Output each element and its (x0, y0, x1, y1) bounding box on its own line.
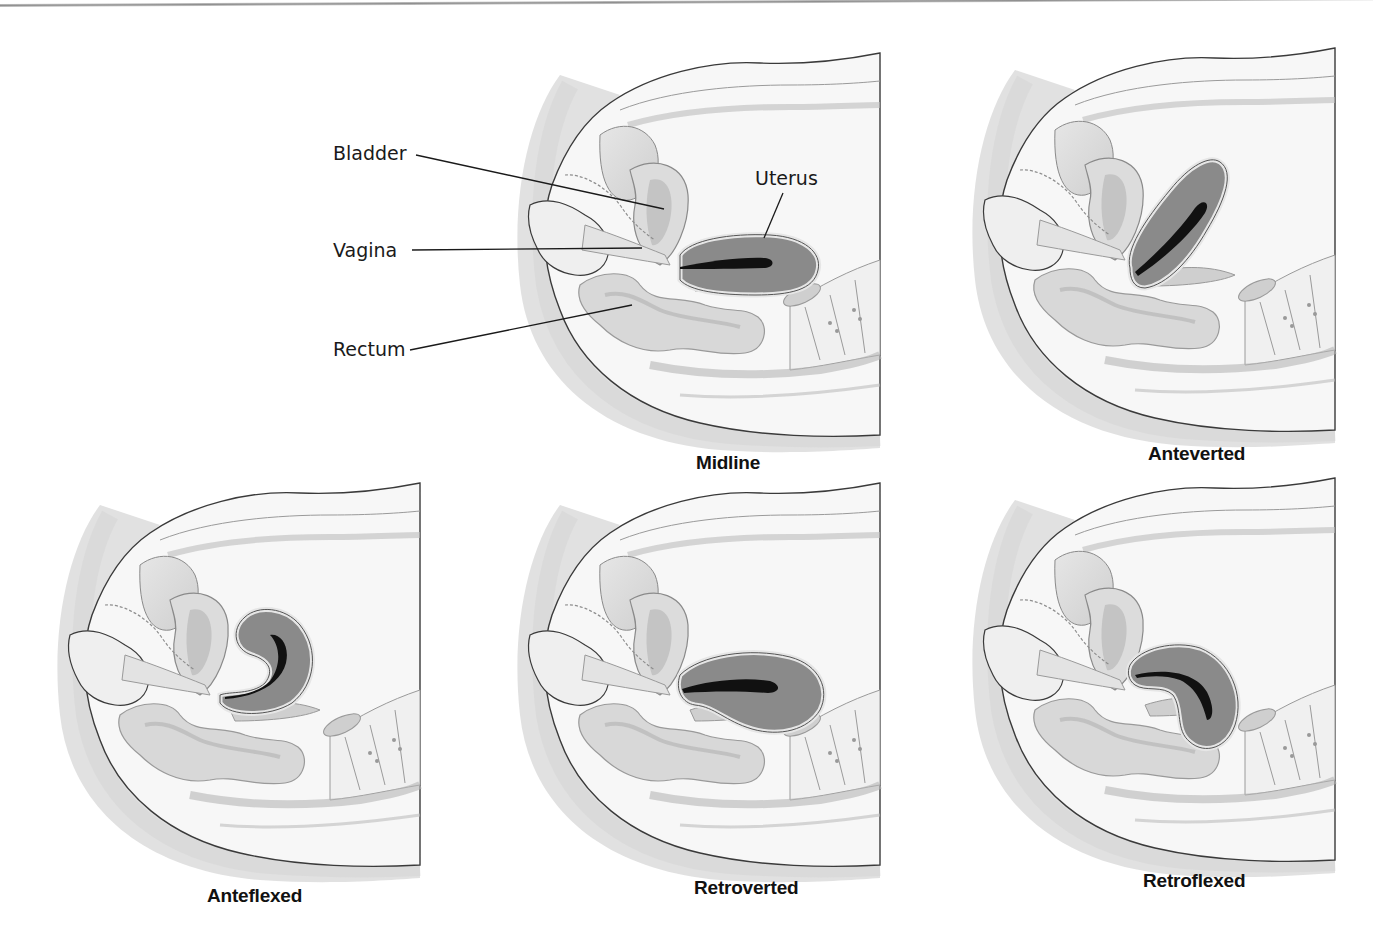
label-uterus: Uterus (755, 167, 818, 189)
caption-retroverted: Retroverted (694, 877, 798, 899)
panel-anteflexed (30, 485, 430, 885)
sagittal-pelvis-illustration (945, 50, 1345, 450)
label-rectum: Rectum (333, 338, 405, 360)
caption-retroflexed: Retroflexed (1143, 870, 1245, 892)
panel-anteverted (945, 50, 1345, 450)
panel-retroflexed (945, 480, 1345, 880)
caption-anteverted: Anteverted (1148, 443, 1245, 465)
top-border-rule (0, 0, 1373, 7)
panel-midline (490, 55, 890, 455)
sagittal-pelvis-illustration (30, 485, 430, 885)
caption-midline: Midline (696, 452, 760, 474)
sagittal-pelvis-illustration (945, 480, 1345, 880)
panel-retroverted (490, 485, 890, 885)
sagittal-pelvis-illustration (490, 485, 890, 885)
caption-anteflexed: Anteflexed (207, 885, 302, 907)
sagittal-pelvis-illustration (490, 55, 890, 455)
label-vagina: Vagina (333, 239, 397, 261)
label-bladder: Bladder (333, 142, 407, 164)
